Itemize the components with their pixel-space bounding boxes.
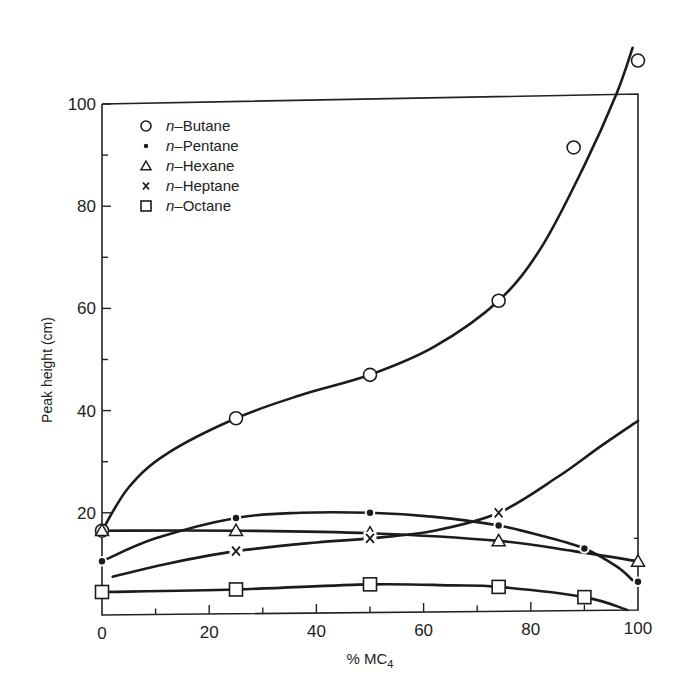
y-axis-title: Peak height (cm) (39, 317, 55, 423)
legend-item: n–Butane (141, 117, 230, 134)
filled-circle-icon (634, 578, 642, 586)
open-square-icon (492, 580, 505, 593)
x-tick-label: 40 (307, 622, 326, 641)
legend-item: n–Heptane (141, 177, 239, 194)
legend-item: n–Pentane (143, 137, 239, 154)
legend-item: n–Octane (141, 197, 231, 214)
cross-icon (492, 506, 505, 519)
x-tick-label: 80 (521, 620, 540, 639)
y-tick-label: 60 (77, 299, 96, 318)
legend-label: n–Heptane (166, 177, 239, 194)
filled-circle-icon (232, 514, 240, 522)
x-tick-label: 20 (200, 623, 219, 642)
x-tick-label: 0 (97, 624, 106, 643)
legend-label: n–Butane (166, 117, 230, 134)
curve-n-pentane (102, 512, 633, 580)
x-tick-label: 60 (414, 621, 433, 640)
open-square-icon (578, 591, 591, 604)
open-square-icon (96, 586, 109, 599)
axes: 02040608010020406080100 (68, 94, 653, 643)
open-circle-icon (230, 412, 243, 425)
filled-circle-icon (143, 143, 150, 150)
open-square-icon (141, 201, 151, 211)
open-square-icon (230, 583, 243, 596)
filled-circle-icon (366, 509, 374, 517)
open-circle-icon (364, 368, 377, 381)
x-axis-title: % MC4 (347, 650, 394, 670)
filled-circle-icon (580, 544, 588, 552)
open-circle-icon (567, 141, 580, 154)
cross-icon (364, 532, 377, 545)
open-circle-icon (632, 54, 645, 67)
open-circle-icon (141, 121, 151, 131)
y-tick-label: 100 (68, 95, 96, 114)
open-triangle-icon (141, 161, 151, 170)
open-square-icon (364, 578, 377, 591)
cross-icon (141, 181, 151, 191)
filled-circle-icon (98, 557, 106, 565)
legend-label: n–Octane (166, 197, 231, 214)
y-tick-label: 80 (77, 197, 96, 216)
x-tick-label: 100 (624, 619, 652, 638)
legend-item: n–Hexane (141, 157, 234, 174)
filled-circle-icon (494, 521, 502, 529)
y-tick-label: 20 (77, 504, 96, 523)
cross-icon (230, 545, 243, 558)
y-tick-label: 40 (77, 402, 96, 421)
legend: n–Butanen–Pentanen–Hexanen–Heptanen–Octa… (141, 117, 239, 214)
chart: 02040608010020406080100 n–Butanen–Pentan… (0, 0, 685, 696)
curve-n-heptane (113, 421, 638, 577)
open-circle-icon (492, 294, 505, 307)
legend-label: n–Pentane (166, 137, 239, 154)
legend-label: n–Hexane (166, 157, 234, 174)
